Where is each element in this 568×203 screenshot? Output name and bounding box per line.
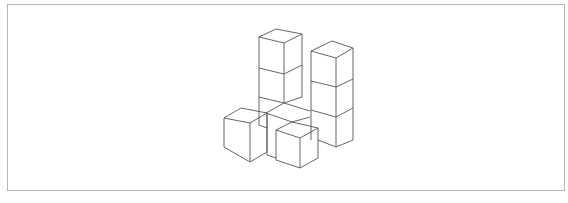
left-tower (259, 29, 302, 103)
cube-drawing (0, 0, 568, 203)
left-single-cube (224, 108, 267, 162)
front-single-cube (276, 122, 318, 168)
right-tower (311, 41, 353, 147)
